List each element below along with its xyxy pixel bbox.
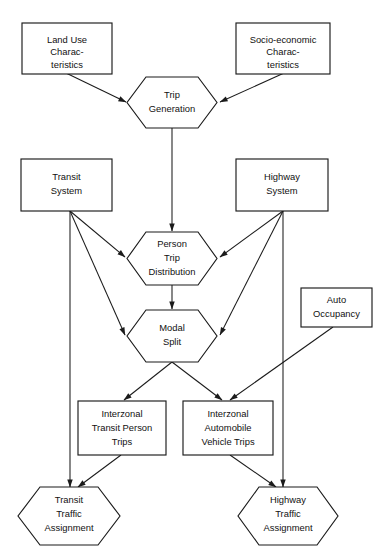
socio-economic-label: Socio-economic [250,34,317,45]
transit-system-label-line2: System [51,185,82,196]
flowchart-diagram: Land Use Charac- teristics Socio-economi… [0,0,390,556]
auto-occupancy-label: Auto [327,294,346,305]
interzonal-automobile-label: Interzonal [207,408,248,419]
person-trip-distribution-label-line2: Trip [164,252,180,263]
modal-split-label: Modal [159,322,185,333]
node-interzonal-transit-person-trips[interactable]: Interzonal Transit Person Trips [78,401,166,455]
auto-occupancy-label-line2: Occupancy [313,308,360,319]
modal-split-label-line2: Split [163,336,182,347]
edge-transit-system-to-person-trip-distribution [70,211,125,257]
interzonal-automobile-label-line2: Automobile [205,422,252,433]
highway-system-label-line2: System [266,185,297,196]
interzonal-transit-label: Interzonal [101,408,142,419]
trip-generation-label-line2: Generation [149,103,195,114]
node-layer: Land Use Charac- teristics Socio-economi… [18,23,372,545]
edge-land-use-to-trip-generation [67,74,126,103]
node-socio-economic[interactable]: Socio-economic Charac- teristics [236,23,330,74]
land-use-label-line2: Charac- [50,46,83,57]
node-person-trip-distribution[interactable]: Person Trip Distribution [127,232,217,285]
node-modal-split[interactable]: Modal Split [127,310,217,362]
transit-system-label: Transit [52,171,81,182]
interzonal-automobile-label-line3: Vehicle Trips [201,436,254,447]
edge-interzonal-automobile-to-highway-assignment [230,455,276,487]
node-transit-traffic-assignment[interactable]: Transit Traffic Assignment [18,487,120,545]
highway-traffic-assignment-label: Highway [270,494,306,505]
flowchart-canvas: Land Use Charac- teristics Socio-economi… [0,0,390,556]
edge-interzonal-transit-to-transit-assignment [78,455,121,487]
land-use-label-line3: teristics [51,59,83,70]
edge-highway-system-to-person-trip-distribution [220,211,283,257]
transit-traffic-assignment-label-line2: Traffic [56,508,82,519]
person-trip-distribution-label-line3: Distribution [149,266,196,277]
edge-transit-system-to-modal-split [70,211,125,335]
transit-traffic-assignment-label-line3: Assignment [45,522,94,533]
edge-modal-split-to-interzonal-automobile [172,362,222,400]
node-highway-traffic-assignment[interactable]: Highway Traffic Assignment [238,487,338,545]
trip-generation-label: Trip [164,89,180,100]
person-trip-distribution-label: Person [157,238,187,249]
socio-economic-label-line2: Charac- [266,46,299,57]
land-use-label: Land Use [47,34,87,45]
edge-auto-occupancy-to-interzonal-automobile [230,327,333,400]
socio-economic-label-line3: teristics [267,59,299,70]
node-land-use[interactable]: Land Use Charac- teristics [22,23,112,74]
node-highway-system[interactable]: Highway System [236,159,328,211]
node-transit-system[interactable]: Transit System [21,159,112,211]
node-interzonal-automobile-vehicle-trips[interactable]: Interzonal Automobile Vehicle Trips [183,401,273,455]
highway-traffic-assignment-label-line2: Traffic [275,508,301,519]
transit-traffic-assignment-label: Transit [55,494,84,505]
interzonal-transit-label-line2: Transit Person [92,422,153,433]
node-trip-generation[interactable]: Trip Generation [127,77,217,128]
highway-traffic-assignment-label-line3: Assignment [264,522,313,533]
edge-socio-economic-to-trip-generation [220,74,283,103]
node-auto-occupancy[interactable]: Auto Occupancy [301,288,372,327]
interzonal-transit-label-line3: Trips [112,436,133,447]
highway-system-label: Highway [264,171,300,182]
edge-modal-split-to-interzonal-transit [124,362,172,400]
edge-highway-system-to-modal-split [220,211,283,335]
